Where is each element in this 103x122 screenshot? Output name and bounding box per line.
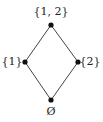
- edge-bottom-left: [25, 62, 51, 100]
- node-left: [22, 59, 27, 64]
- node-label-top: {1, 2}: [34, 6, 69, 18]
- edges: [25, 25, 78, 100]
- edge-right-top: [51, 25, 78, 62]
- hasse-diagram: {1, 2} {1} {2} Ø: [0, 0, 103, 122]
- nodes: [22, 22, 80, 102]
- node-label-left: {1}: [2, 56, 23, 68]
- node-bottom: [48, 97, 53, 102]
- node-label-right: {2}: [80, 56, 101, 68]
- edge-left-top: [25, 25, 51, 62]
- node-label-bottom: Ø: [46, 106, 55, 118]
- edge-bottom-right: [51, 62, 78, 100]
- node-top: [48, 22, 53, 27]
